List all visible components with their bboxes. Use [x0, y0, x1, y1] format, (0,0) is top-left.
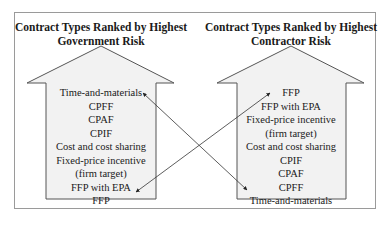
contractor-risk-title-line1: Contract Types Ranked by Highest: [196, 20, 386, 34]
list-item: CPAF: [235, 167, 347, 181]
list-item: Cost and cost sharing: [45, 140, 157, 154]
government-risk-title-line2: Government Risk: [6, 34, 196, 48]
list-item: FFP with EPA: [235, 100, 347, 114]
list-item: FFP: [45, 194, 157, 208]
contractor-risk-title: Contract Types Ranked by Highest Contrac…: [196, 20, 386, 48]
list-item: CPFF: [235, 181, 347, 195]
list-item: Cost and cost sharing: [235, 140, 347, 154]
list-item: Fixed-price incentive: [45, 154, 157, 168]
list-item: FFP with EPA: [45, 181, 157, 195]
government-risk-title-line1: Contract Types Ranked by Highest: [6, 20, 196, 34]
government-risk-title: Contract Types Ranked by Highest Governm…: [6, 20, 196, 48]
list-item: CPAF: [45, 113, 157, 127]
list-item: Time-and-materials: [45, 86, 157, 100]
list-item: Time-and-materials: [235, 194, 347, 208]
list-item: (firm target): [45, 167, 157, 181]
list-item: FFP: [235, 86, 347, 100]
list-item: CPFF: [45, 100, 157, 114]
list-item: CPIF: [45, 127, 157, 141]
contractor-risk-list: FFP FFP with EPA Fixed-price incentive (…: [235, 86, 347, 208]
list-item: Fixed-price incentive: [235, 113, 347, 127]
contractor-risk-title-line2: Contractor Risk: [196, 34, 386, 48]
list-item: (firm target): [235, 127, 347, 141]
government-risk-list: Time-and-materials CPFF CPAF CPIF Cost a…: [45, 86, 157, 208]
list-item: CPIF: [235, 154, 347, 168]
